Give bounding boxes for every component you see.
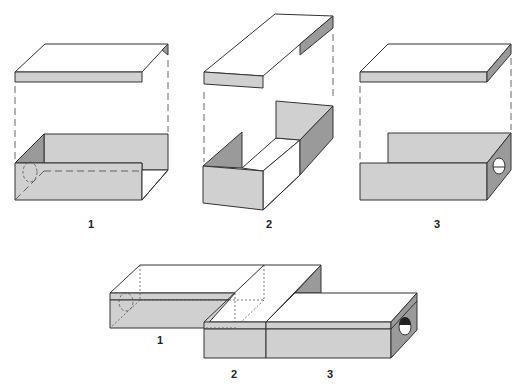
box-assembly-diagram: 1 2 [0, 0, 525, 389]
label-2: 2 [266, 218, 272, 230]
lid-1 [15, 44, 168, 82]
hole-icon [399, 317, 411, 335]
hole-icon [493, 158, 505, 174]
assembled-label-3: 3 [327, 368, 333, 380]
assembled-view: 1 2 3 [110, 265, 417, 380]
lid-2 [204, 14, 333, 88]
assembled-label-1: 1 [157, 334, 163, 346]
frame-2 [203, 101, 333, 210]
component-1-exploded: 1 [15, 44, 168, 230]
label-3: 3 [434, 218, 440, 230]
assembled-box-2 [204, 322, 266, 358]
box-1 [15, 134, 168, 200]
component-3-exploded: 3 [360, 44, 511, 230]
label-1: 1 [88, 218, 94, 230]
assembled-label-2: 2 [231, 368, 237, 380]
assembled-box-3 [266, 293, 417, 358]
component-2-exploded: 2 [203, 14, 333, 230]
box-3 [360, 133, 511, 200]
lid-3 [360, 44, 511, 82]
